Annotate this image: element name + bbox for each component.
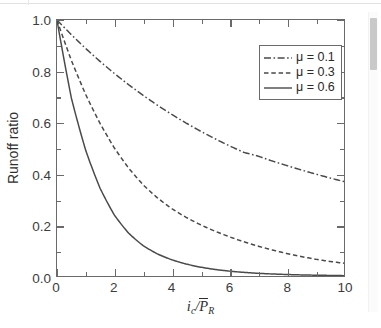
legend-line-dashed-icon [264,68,292,78]
y-major-tick-right [337,123,344,124]
y-tick-label: 0.4 [32,169,51,183]
y-major-tick [57,175,64,176]
y-minor-tick [57,97,61,98]
x-tick-label: 2 [110,281,118,295]
x-major-tick [115,269,116,276]
x-minor-tick [86,272,87,276]
y-tick-label: 0.0 [32,272,51,286]
x-minor-tick-top [144,20,145,24]
y-axis-tick-labels: 1.0 0.8 0.6 0.4 0.2 0.0 [0,19,51,277]
legend-line-dashdot-icon [264,53,292,63]
y-minor-tick-right [340,252,344,253]
x-axis-title-denominator-sub: R [208,305,214,316]
x-tick-label: 8 [283,281,291,295]
x-minor-tick [317,272,318,276]
y-major-tick-right [337,226,344,227]
x-minor-tick [259,272,260,276]
y-tick-label: 0.6 [32,117,51,131]
x-major-tick [288,269,289,276]
x-minor-tick [144,272,145,276]
vertical-scrollbar[interactable] [368,12,378,312]
x-axis-title-denominator: P [199,298,208,314]
x-minor-tick-top [259,20,260,24]
y-major-tick [57,226,64,227]
chart-figure: Runoff ratio 1.0 0.8 0.6 0.4 0.2 0.0 [0,0,358,328]
y-major-tick [57,20,64,21]
x-major-tick [230,269,231,276]
y-minor-tick-right [340,201,344,202]
x-tick-label: 10 [337,281,352,295]
x-minor-tick [202,272,203,276]
legend-item: μ = 0.1 [264,50,336,65]
y-major-tick-right [337,175,344,176]
document-page: Runoff ratio 1.0 0.8 0.6 0.4 0.2 0.0 [0,0,381,328]
legend-line-solid-icon [264,83,292,93]
y-minor-tick [57,46,61,47]
x-axis-title: ic/PR [56,298,345,316]
legend-label: μ = 0.6 [296,81,335,94]
legend-label: μ = 0.1 [296,51,335,64]
x-major-tick-top [288,20,289,27]
x-major-tick [173,269,174,276]
scrollbar-thumb[interactable] [370,18,377,70]
legend-item: μ = 0.6 [264,80,336,95]
x-major-tick-top [173,20,174,27]
x-tick-label: 6 [226,281,234,295]
x-minor-tick-top [317,20,318,24]
x-major-tick-top [230,20,231,27]
x-major-tick-top [115,20,116,27]
x-major-tick [57,269,58,276]
plot-area: μ = 0.1 μ = 0.3 μ [56,19,345,277]
x-minor-tick-top [86,20,87,24]
y-major-tick [57,123,64,124]
y-minor-tick-right [340,149,344,150]
y-tick-label: 0.8 [32,66,51,80]
x-tick-label: 0 [52,281,60,295]
legend-label: μ = 0.3 [296,66,335,79]
y-major-tick-right [337,20,344,21]
y-tick-label: 0.2 [32,220,51,234]
y-tick-label: 1.0 [32,14,51,28]
y-minor-tick [57,149,61,150]
y-major-tick [57,72,64,73]
legend-item: μ = 0.3 [264,65,336,80]
x-minor-tick-top [202,20,203,24]
chart-legend: μ = 0.1 μ = 0.3 μ [259,45,342,100]
y-minor-tick [57,252,61,253]
y-minor-tick [57,201,61,202]
x-tick-label: 4 [168,281,176,295]
